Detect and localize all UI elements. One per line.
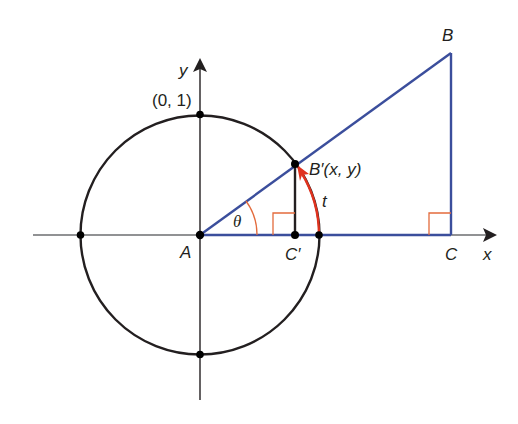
label-x-axis: x (482, 245, 492, 264)
label-A: A (179, 243, 191, 262)
label-t: t (322, 192, 328, 211)
point-top (196, 111, 204, 119)
label-B: B (442, 26, 453, 45)
label-theta: θ (233, 212, 241, 231)
point-left (77, 231, 85, 239)
unit-circle-diagram: y (0, 1) A B B′(x, y) C C′ x t θ (0, 0, 518, 424)
diagram-svg: y (0, 1) A B B′(x, y) C C′ x t θ (0, 0, 518, 424)
label-C: C (445, 245, 458, 264)
arc-t-arrow-icon (297, 165, 309, 181)
label-Cprime: C′ (285, 245, 301, 264)
label-Bprime: B′(x, y) (309, 160, 361, 179)
label-top-point: (0, 1) (152, 91, 192, 110)
point-bottom (196, 351, 204, 359)
theta-arc (246, 201, 257, 235)
point-A (196, 231, 204, 239)
point-Bprime (291, 160, 299, 168)
point-Cprime (291, 231, 299, 239)
right-angle-marker-Cprime (273, 213, 295, 235)
label-y-axis: y (178, 61, 189, 80)
right-angle-marker-C (429, 213, 451, 235)
point-right (315, 231, 323, 239)
